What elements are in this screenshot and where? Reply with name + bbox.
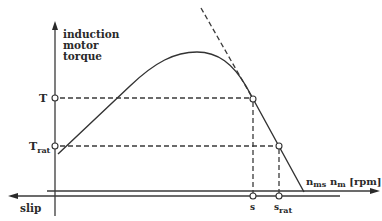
s-label: s xyxy=(250,202,255,212)
slip-axis xyxy=(8,193,340,199)
rated-point-marker xyxy=(276,143,282,149)
Trat-label: Trat xyxy=(29,140,51,155)
speed-axis xyxy=(47,188,380,194)
nms-label: nms xyxy=(306,176,327,189)
srat-label: srat xyxy=(274,202,292,215)
slip-label: slip xyxy=(20,202,41,214)
speed-axis-arrow-icon xyxy=(370,188,380,194)
slip-axis-arrow-icon xyxy=(8,193,18,199)
torque-speed-diagram: induction motor torque T Trat slip s sra… xyxy=(0,0,382,221)
operating-point-marker xyxy=(250,96,256,102)
torque-axis-arrow-icon xyxy=(52,21,58,30)
x-axis-label: nm [rpm] xyxy=(330,176,382,189)
y-axis-label: induction motor torque xyxy=(63,28,123,62)
srat-marker xyxy=(276,193,282,199)
torque-axis xyxy=(52,21,58,216)
s-marker xyxy=(250,193,256,199)
Trat-marker xyxy=(52,143,58,149)
torque-curve xyxy=(58,52,304,192)
T-label: T xyxy=(39,92,48,105)
T-marker xyxy=(52,95,58,101)
